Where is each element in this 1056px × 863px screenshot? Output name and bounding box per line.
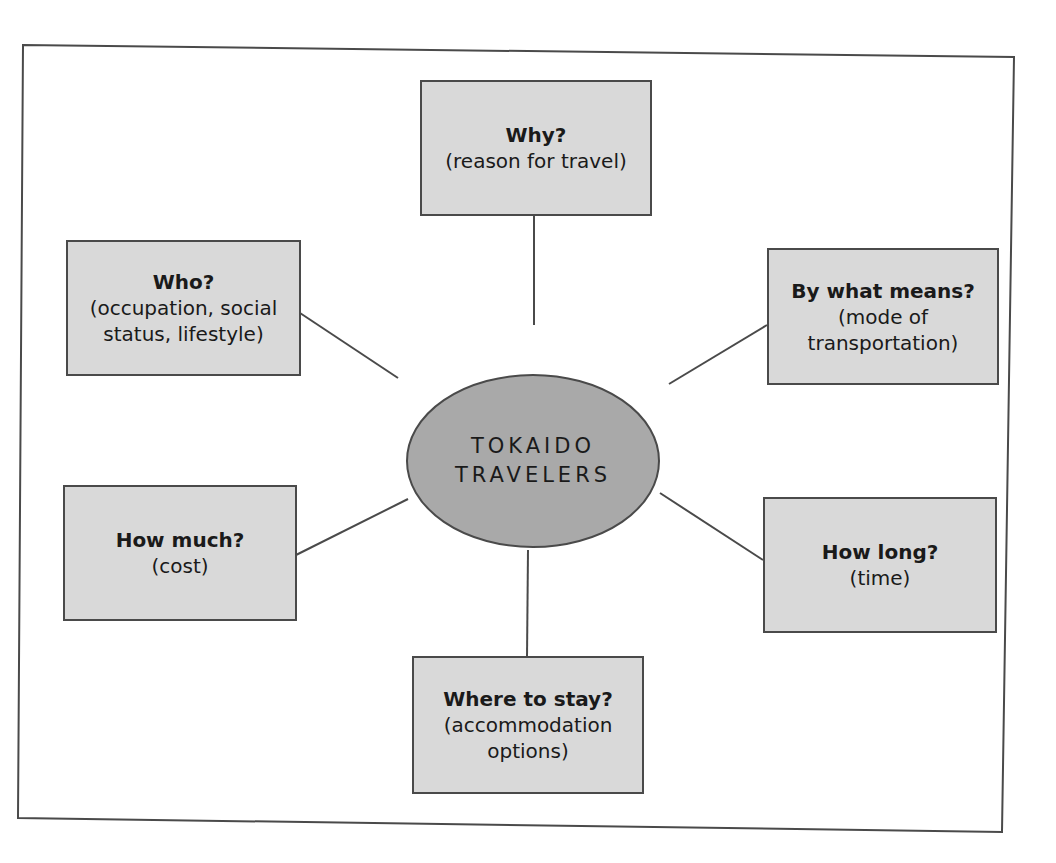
node-who-question: Who?	[153, 269, 215, 295]
node-where-detail-line2: options)	[487, 738, 568, 764]
connector-how-much	[296, 499, 408, 555]
node-means-detail-line2: transportation)	[808, 330, 959, 356]
node-why: Why? (reason for travel)	[420, 80, 652, 216]
node-who-detail-line2: status, lifestyle)	[103, 321, 263, 347]
node-why-detail: (reason for travel)	[445, 148, 627, 174]
node-where-detail-line1: (accommodation	[444, 712, 613, 738]
node-means-detail-line1: (mode of	[838, 304, 928, 330]
connector-where	[527, 550, 528, 657]
center-label: TOKAIDO TRAVELERS	[407, 395, 659, 527]
connector-who	[300, 313, 398, 378]
node-how-much: How much? (cost)	[63, 485, 297, 621]
node-how-long-detail: (time)	[850, 565, 911, 591]
node-how-long: How long? (time)	[763, 497, 997, 633]
node-how-long-question: How long?	[822, 539, 939, 565]
node-how-much-question: How much?	[116, 527, 245, 553]
node-who-detail-line1: (occupation, social	[90, 295, 278, 321]
node-why-question: Why?	[506, 122, 567, 148]
node-where-question: Where to stay?	[443, 686, 613, 712]
node-means: By what means? (mode of transportation)	[767, 248, 999, 385]
center-label-line2: TRAVELERS	[455, 461, 611, 490]
node-where: Where to stay? (accommodation options)	[412, 656, 644, 794]
node-how-much-detail: (cost)	[151, 553, 208, 579]
connector-how-long	[660, 493, 763, 560]
node-who: Who? (occupation, social status, lifesty…	[66, 240, 301, 376]
connector-means	[669, 325, 767, 384]
center-label-line1: TOKAIDO	[471, 432, 595, 461]
node-means-question: By what means?	[791, 278, 975, 304]
